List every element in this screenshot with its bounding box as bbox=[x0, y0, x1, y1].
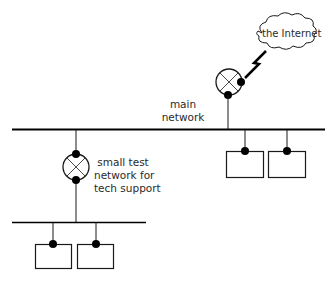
host-main-2 bbox=[269, 130, 306, 178]
test-network-label-line3: tech support bbox=[94, 182, 152, 195]
test-router-icon bbox=[63, 150, 89, 184]
host-test-2 bbox=[78, 223, 114, 269]
host-test-1 bbox=[36, 223, 72, 269]
internet-label: the Internet bbox=[262, 27, 318, 40]
main-network-label-line1: main bbox=[155, 98, 211, 111]
test-network-label-line1: small test bbox=[94, 156, 152, 169]
main-network-label: main network bbox=[155, 98, 211, 124]
main-router-icon bbox=[216, 69, 245, 99]
network-diagram bbox=[0, 0, 335, 282]
test-network-label-line2: network for bbox=[94, 169, 152, 182]
wireless-link-icon bbox=[245, 51, 266, 78]
main-network-label-line2: network bbox=[155, 111, 211, 124]
test-network-label: small test network for tech support bbox=[94, 156, 152, 195]
host-main-1 bbox=[227, 130, 264, 178]
